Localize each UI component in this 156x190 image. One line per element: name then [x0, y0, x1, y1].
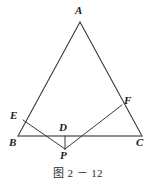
segment-PF	[65, 105, 122, 149]
point-label-F: F	[124, 95, 131, 106]
geometry-figure: A B C D E F P 图 2 － 12	[0, 0, 156, 190]
point-label-C: C	[136, 137, 143, 148]
side-AB	[18, 22, 80, 136]
figure-caption: 图 2 － 12	[0, 166, 156, 180]
side-AC	[80, 22, 142, 136]
point-label-A: A	[75, 5, 82, 16]
point-label-D: D	[59, 122, 67, 133]
point-label-E: E	[10, 110, 17, 121]
geometry-diagram	[0, 0, 156, 190]
point-label-P: P	[60, 150, 67, 161]
point-label-B: B	[9, 137, 16, 148]
